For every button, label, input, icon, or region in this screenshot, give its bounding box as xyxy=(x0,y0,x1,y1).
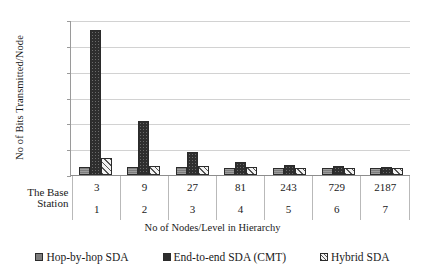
bar xyxy=(284,165,295,175)
axis-divider xyxy=(409,198,410,220)
bar xyxy=(295,168,306,175)
plot-area: 020040060080010001200 xyxy=(70,21,410,176)
bar-chart: No of Bits Transmitted/Node 020040060080… xyxy=(0,0,425,275)
bar xyxy=(138,121,149,175)
x-level-label: 7 xyxy=(361,198,409,220)
bar xyxy=(176,167,187,175)
x-category-label: 27 xyxy=(168,176,216,198)
bar-group xyxy=(217,21,266,175)
bar xyxy=(101,158,112,175)
legend-item[interactable]: Hybrid SDA xyxy=(320,251,389,263)
x-category-label: 243 xyxy=(264,176,312,198)
x-category-label: 81 xyxy=(216,176,264,198)
row-header-base-station: The Base Station xyxy=(0,176,73,220)
x-level-label: 6 xyxy=(313,198,361,220)
bar xyxy=(224,168,235,175)
bar xyxy=(333,166,344,175)
legend-swatch-icon xyxy=(35,253,43,261)
legend-swatch-icon xyxy=(320,253,328,261)
bar-group xyxy=(168,21,217,175)
x-level-label: 4 xyxy=(216,198,264,220)
row-header-line-2: Station xyxy=(37,197,68,209)
bar xyxy=(344,168,355,175)
legend-label: End-to-end SDA (CMT) xyxy=(174,251,286,263)
bar xyxy=(198,166,209,175)
bar xyxy=(273,168,284,175)
legend-item[interactable]: End-to-end SDA (CMT) xyxy=(163,251,286,263)
bar xyxy=(381,167,392,175)
x-level-label: 2 xyxy=(121,198,169,220)
x-category-label: 3 xyxy=(73,176,121,198)
legend-label: Hybrid SDA xyxy=(331,251,389,263)
x-axis-title: No of Nodes/Level in Hierarchy xyxy=(0,222,425,233)
bar-group xyxy=(362,21,411,175)
x-category-label: 9 xyxy=(121,176,169,198)
category-row-nodes: The Base Station 3927812437292187 xyxy=(0,176,410,198)
x-category-label: 729 xyxy=(313,176,361,198)
bar-group xyxy=(120,21,169,175)
legend-swatch-icon xyxy=(163,253,171,261)
chart-legend: Hop-by-hop SDAEnd-to-end SDA (CMT)Hybrid… xyxy=(0,246,425,268)
bar xyxy=(187,152,198,175)
category-axis-table: The Base Station 3927812437292187 123456… xyxy=(0,176,410,220)
bar xyxy=(370,168,381,175)
y-axis-title: No of Bits Transmitted/Node xyxy=(14,13,25,183)
bar-group xyxy=(314,21,363,175)
bar xyxy=(322,168,333,175)
bar xyxy=(90,30,101,175)
axis-divider xyxy=(409,176,410,198)
bar xyxy=(246,167,257,175)
bar xyxy=(79,167,90,175)
x-level-label: 1 xyxy=(73,198,121,220)
legend-label: Hop-by-hop SDA xyxy=(46,251,128,263)
legend-item[interactable]: Hop-by-hop SDA xyxy=(35,251,128,263)
x-level-label: 3 xyxy=(168,198,216,220)
bar xyxy=(149,166,160,175)
bar-group xyxy=(71,21,120,175)
bar xyxy=(127,167,138,175)
x-level-label: 5 xyxy=(264,198,312,220)
bar-group xyxy=(265,21,314,175)
x-category-label: 2187 xyxy=(361,176,409,198)
bar xyxy=(235,162,246,175)
bar xyxy=(392,168,403,175)
